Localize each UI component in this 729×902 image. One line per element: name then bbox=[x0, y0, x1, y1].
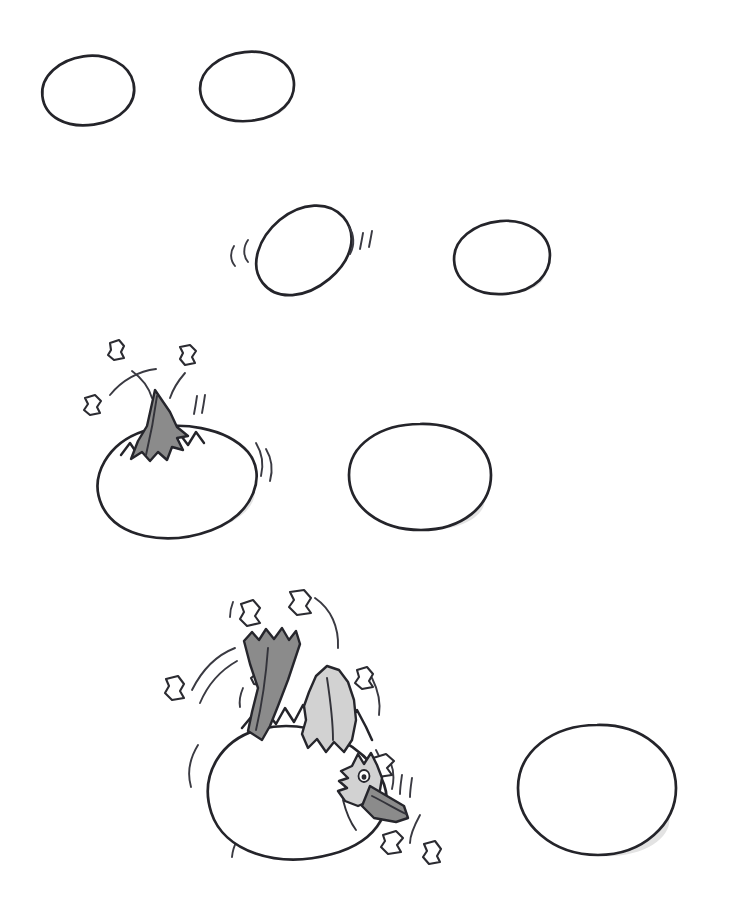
row-4-group bbox=[165, 590, 676, 873]
hatch-arc-lower-right bbox=[410, 815, 420, 843]
hatch-arc-right-tick-2 bbox=[410, 778, 412, 797]
egg-3-wobbling bbox=[231, 188, 372, 313]
egg-6-outline bbox=[349, 424, 491, 530]
egg-2-outline bbox=[198, 49, 297, 124]
hatch-arc-between-parts bbox=[372, 678, 380, 715]
hatch-arc-left-2 bbox=[200, 661, 237, 703]
hatch-arc-left-3 bbox=[240, 688, 243, 707]
egg-1-intact bbox=[39, 51, 138, 129]
crack-arc-side-2 bbox=[266, 449, 272, 481]
shell-chip-g bbox=[381, 831, 403, 854]
egg-7-hatching bbox=[165, 590, 441, 873]
egg-5-cracking bbox=[84, 340, 272, 553]
egg-4-intact bbox=[452, 218, 552, 296]
egg-8-outline bbox=[518, 725, 676, 855]
egg-6-intact bbox=[349, 424, 491, 530]
crack-arc-upper-right bbox=[170, 373, 185, 398]
egg-2-intact bbox=[198, 49, 297, 125]
hatch-arc-top-left-tick bbox=[230, 602, 233, 617]
wobble-arc-left-inner bbox=[244, 240, 248, 262]
hatch-arc-left-1 bbox=[192, 648, 235, 690]
row-1-group bbox=[39, 49, 297, 130]
shell-chip-a bbox=[240, 600, 260, 626]
egg-3-outline bbox=[239, 188, 368, 313]
wobble-tick-right-2 bbox=[369, 231, 372, 247]
drawing-sheet: Egg Hatching Sequence pencil and ink lin… bbox=[0, 0, 729, 902]
wobble-tick-right-1 bbox=[360, 233, 363, 249]
wobble-arc-left-outer bbox=[231, 246, 235, 266]
egg-1-outline bbox=[39, 51, 138, 129]
shell-chip-h bbox=[423, 841, 441, 864]
chick-pupil bbox=[362, 774, 367, 779]
shell-chip-2 bbox=[180, 345, 196, 365]
row-2-group bbox=[231, 188, 552, 313]
hatch-arc-lower-left-1 bbox=[189, 745, 198, 787]
chick-wing-raised bbox=[302, 666, 356, 752]
egg-8-intact bbox=[518, 725, 676, 856]
shell-chip-e bbox=[355, 667, 373, 689]
shell-chip-3 bbox=[84, 395, 101, 415]
shell-chip-1 bbox=[108, 340, 124, 360]
crack-tick-right-1 bbox=[194, 396, 197, 414]
chick-leg-kicking bbox=[244, 628, 300, 740]
row-3-group bbox=[84, 340, 491, 553]
hatch-arc-top-right bbox=[315, 598, 338, 648]
shell-chip-b bbox=[289, 590, 311, 615]
crack-tick-right-2 bbox=[202, 395, 205, 413]
shell-chip-c bbox=[165, 676, 184, 700]
illustration-canvas bbox=[0, 0, 729, 902]
hatch-arc-right-tick-1 bbox=[400, 775, 402, 794]
